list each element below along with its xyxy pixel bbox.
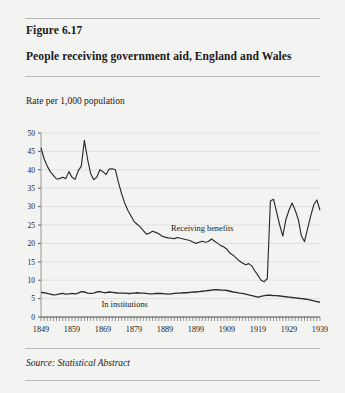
x-tick-label: 1939: [312, 325, 328, 334]
x-tick-label: 1859: [64, 325, 80, 334]
x-tick-label: 1889: [157, 325, 173, 334]
y-tick-labels: 05101520253035404550: [27, 129, 35, 322]
y-tick-label: 45: [27, 147, 35, 156]
y-tick-label: 5: [31, 294, 35, 303]
x-tick-label: 1899: [188, 325, 204, 334]
source-note: Source: Statistical Abstract: [26, 358, 130, 368]
y-tick-label: 40: [27, 166, 35, 175]
y-tick-label: 10: [27, 276, 35, 285]
line-chart: 05101520253035404550 1849185918691879188…: [0, 110, 345, 350]
y-tick-label: 20: [27, 239, 35, 248]
series-line-receiving-benefits: [41, 140, 320, 281]
y-tick-label: 50: [27, 129, 35, 138]
x-tick-labels: 1849185918691879188918991909191919291939: [33, 325, 328, 334]
x-tick-label: 1849: [33, 325, 49, 334]
figure-panel: Figure 6.17 People receiving government …: [0, 0, 345, 393]
figure-number: Figure 6.17: [26, 24, 82, 36]
y-tick-label: 0: [31, 313, 35, 322]
annotation-in-institutions: In institutions: [102, 300, 148, 309]
top-divider: [25, 18, 320, 19]
y-tick-label: 25: [27, 221, 35, 230]
x-tick-label: 1909: [219, 325, 235, 334]
x-tick-label: 1919: [250, 325, 266, 334]
figure-title: People receiving government aid, England…: [26, 50, 292, 62]
y-axis-note: Rate per 1,000 population: [26, 96, 125, 106]
x-minor-ticks: [41, 317, 320, 321]
chart-plot-area: 05101520253035404550 1849185918691879188…: [0, 110, 345, 350]
y-tick-label: 30: [27, 202, 35, 211]
series-line-in-institutions: [41, 290, 320, 303]
annotation-receiving-benefits: Receiving benefits: [171, 224, 234, 233]
x-tick-label: 1869: [95, 325, 111, 334]
title-divider: [25, 76, 320, 77]
source-divider: [25, 348, 320, 349]
y-tick-label: 15: [27, 258, 35, 267]
y-tick-label: 35: [27, 184, 35, 193]
x-tick-label: 1879: [126, 325, 142, 334]
bottom-divider: [25, 380, 320, 381]
x-tick-label: 1929: [281, 325, 297, 334]
